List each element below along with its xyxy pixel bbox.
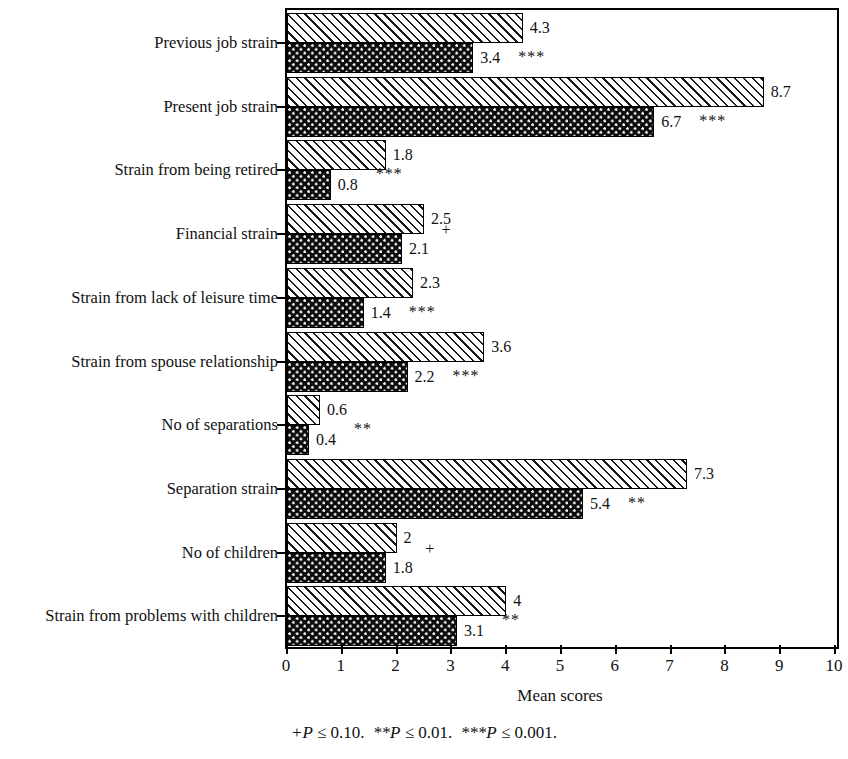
bar-value-label: 2.1 (409, 241, 429, 257)
significance-marker: ** (354, 421, 372, 437)
significance-marker: ** (628, 495, 646, 511)
value-axis-tick-label: 0 (282, 657, 291, 674)
value-axis-tick (670, 645, 672, 654)
x-axis-title: Mean scores (285, 687, 835, 704)
value-axis-tick (505, 645, 507, 654)
bar-value-label: 1.8 (393, 560, 413, 576)
category-tick (277, 297, 286, 299)
value-axis-tick (286, 645, 288, 654)
bar-series-2-dotted (287, 234, 402, 264)
value-axis-tick (450, 645, 452, 654)
bar-series-1-hatched (287, 268, 413, 298)
bar-value-label: 2.2 (415, 369, 435, 385)
bar-series-2-dotted (287, 616, 457, 646)
value-axis-tick (341, 645, 343, 654)
significance-footnote: +P ≤ 0.10. **P ≤ 0.01. ***P ≤ 0.001. (0, 724, 848, 741)
category-label: Strain from being retired (0, 162, 278, 179)
bar-series-2-dotted (287, 489, 583, 519)
footnote-p01-symbol: **P (373, 723, 400, 742)
category-tick (277, 615, 286, 617)
category-label: No of children (0, 544, 278, 561)
value-axis-tick-label: 9 (775, 657, 784, 674)
bar-series-2-dotted (287, 553, 386, 583)
category-label: No of separations (0, 417, 278, 434)
bar-series-1-hatched (287, 140, 386, 170)
category-tick (277, 42, 286, 44)
bar-series-2-dotted (287, 107, 654, 137)
category-label: Present job strain (0, 98, 278, 115)
bar-value-label: 2 (404, 530, 412, 546)
category-tick (277, 169, 286, 171)
bar-value-label: 1.4 (371, 305, 391, 321)
category-label: Financial strain (0, 226, 278, 243)
significance-marker: *** (409, 304, 436, 320)
footnote-p001-value: 0.001. (515, 723, 558, 742)
bar-value-label: 8.7 (771, 84, 791, 100)
footnote-p001-op: ≤ (497, 723, 515, 742)
category-label: Previous job strain (0, 35, 278, 52)
bar-value-label: 3.1 (464, 623, 484, 639)
category-label: Strain from lack of leisure time (0, 290, 278, 307)
bar-value-label: 7.3 (694, 466, 714, 482)
value-axis-tick-label: 8 (720, 657, 729, 674)
value-axis-tick (615, 645, 617, 654)
bar-value-label: 0.4 (316, 432, 336, 448)
category-label: Strain from problems with children (0, 608, 278, 625)
bars-layer: 4.33.4***8.76.7***1.80.8***2.52.1+2.31.4… (287, 8, 835, 645)
bar-value-label: 1.8 (393, 147, 413, 163)
category-tick (277, 106, 286, 108)
significance-marker: *** (376, 166, 403, 182)
bar-series-1-hatched (287, 204, 424, 234)
footnote-p001-symbol: ***P (461, 723, 497, 742)
bar-value-label: 4.3 (530, 20, 550, 36)
value-axis-tick (779, 645, 781, 654)
value-axis-tick-label: 4 (501, 657, 510, 674)
bar-series-2-dotted (287, 362, 408, 392)
value-axis-tick-label: 1 (337, 657, 346, 674)
chart-figure: Previous job strainPresent job strainStr… (0, 0, 848, 759)
value-axis-tick (724, 645, 726, 654)
footnote-p10-op: ≤ (313, 723, 331, 742)
bar-value-label: 0.8 (338, 177, 358, 193)
footnote-p01-value: 0.01. (418, 723, 452, 742)
value-axis-tick (834, 645, 836, 654)
bar-value-label: 3.4 (480, 50, 500, 66)
category-label: Separation strain (0, 481, 278, 498)
bar-value-label: 2.3 (420, 275, 440, 291)
significance-marker: *** (699, 113, 726, 129)
value-axis-tick-label: 7 (665, 657, 674, 674)
significance-marker: + (442, 222, 452, 238)
bar-series-2-dotted (287, 425, 309, 455)
bar-value-label: 3.6 (491, 339, 511, 355)
category-axis: Previous job strainPresent job strainStr… (0, 8, 278, 645)
value-axis-tick (396, 645, 398, 654)
significance-marker: ** (502, 612, 520, 628)
category-label: Strain from spouse relationship (0, 353, 278, 370)
footnote-p10-value: 0.10. (331, 723, 365, 742)
value-axis-tick-label: 5 (556, 657, 565, 674)
bar-value-label: 4 (513, 593, 521, 609)
category-tick (277, 424, 286, 426)
significance-marker: *** (518, 49, 545, 65)
value-axis-tick-label: 6 (611, 657, 620, 674)
bar-value-label: 6.7 (661, 114, 681, 130)
value-axis-tick (560, 645, 562, 654)
bar-value-label: 5.4 (590, 496, 610, 512)
bar-series-2-dotted (287, 43, 473, 73)
bar-series-2-dotted (287, 298, 364, 328)
category-tick (277, 361, 286, 363)
value-axis-tick-label: 2 (391, 657, 400, 674)
bar-value-label: 0.6 (327, 402, 347, 418)
bar-series-1-hatched (287, 586, 506, 616)
footnote-p01-op: ≤ (401, 723, 419, 742)
category-tick (277, 552, 286, 554)
bar-series-1-hatched (287, 77, 764, 107)
bar-series-2-dotted (287, 170, 331, 200)
value-axis-tick-label: 10 (826, 657, 843, 674)
bar-series-1-hatched (287, 13, 523, 43)
bar-series-1-hatched (287, 459, 687, 489)
footnote-p10-symbol: +P (291, 723, 313, 742)
bar-series-1-hatched (287, 395, 320, 425)
category-tick (277, 488, 286, 490)
bar-series-1-hatched (287, 523, 397, 553)
